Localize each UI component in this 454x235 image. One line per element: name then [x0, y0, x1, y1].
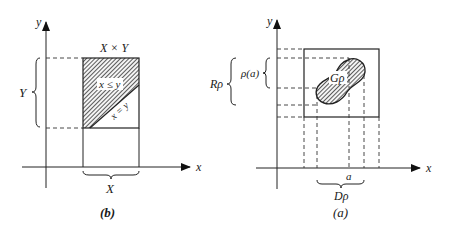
y-brace	[32, 58, 40, 127]
y-axis-label-b: y	[35, 15, 42, 29]
caption-b: (b)	[100, 205, 115, 220]
image-label: ρ(a)	[240, 67, 259, 80]
domain-label: Dρ	[333, 189, 349, 203]
product-label: X × Y	[99, 41, 129, 55]
y-axis-label-a: y	[266, 14, 273, 28]
diagram-canvas: y x X × Y x ≤ y x = y Y X (b) y x	[0, 0, 454, 235]
x-brace-label: X	[105, 181, 115, 196]
range-label: Rρ	[209, 77, 223, 91]
domain-brace	[317, 180, 364, 188]
graph-label: Gρ	[330, 71, 345, 85]
x-axis-label-a: x	[425, 161, 432, 175]
caption-a: (a)	[333, 205, 348, 220]
x-axis-label-b: x	[195, 160, 202, 174]
figure-b: y x X × Y x ≤ y x = y Y X (b)	[19, 15, 202, 220]
image-brace	[263, 58, 270, 88]
region-label: x ≤ y	[98, 78, 120, 90]
point-label: a	[346, 170, 352, 182]
figure-a: y x Gρ ρ(a) Rρ a Dρ (a)	[209, 14, 432, 220]
y-brace-label: Y	[19, 85, 28, 100]
range-brace	[227, 58, 236, 105]
x-brace	[83, 171, 139, 179]
